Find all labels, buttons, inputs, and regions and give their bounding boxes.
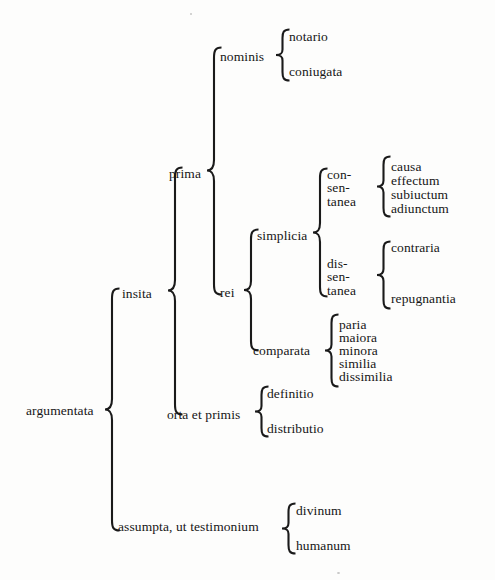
bracket-tree-diagram: argumentata insita assumpta, ut testimon… <box>0 0 495 580</box>
node-simplicia: simplicia <box>257 229 307 242</box>
brace-dissentanea <box>376 240 391 310</box>
node-definitio: definitio <box>267 387 314 400</box>
node-consentanea-line-2: sen- <box>327 181 356 194</box>
node-humanum: humanum <box>296 539 351 552</box>
node-orta-et-primis: orta et primis <box>167 408 240 421</box>
node-causa: causa <box>391 160 421 173</box>
brace-nominis <box>275 28 290 82</box>
brace-insita <box>167 166 183 416</box>
node-dissentanea-line-3: tanea <box>327 284 356 297</box>
brace-simplicia <box>312 167 328 299</box>
brace-prima <box>206 46 222 296</box>
brace-comparata <box>324 313 339 388</box>
node-notario: notario <box>289 30 328 43</box>
node-effectum: effectum <box>391 174 440 187</box>
node-dissentanea: dis- sen- tanea <box>327 257 356 297</box>
node-repugnantia: repugnantia <box>391 292 456 305</box>
node-rei: rei <box>220 286 235 299</box>
node-comparata: comparata <box>253 344 310 357</box>
brace-consentanea <box>376 155 391 218</box>
node-subiuctum: subiuctum <box>391 188 448 201</box>
brace-rei <box>243 228 259 353</box>
brace-assumpta <box>281 502 296 555</box>
node-contraria: contraria <box>391 241 440 254</box>
scan-speck <box>190 13 192 15</box>
node-insita: insita <box>122 287 152 300</box>
brace-argumentata <box>104 287 120 532</box>
node-coniugata: coniugata <box>289 65 342 78</box>
node-argumentata: argumentata <box>26 404 94 417</box>
node-assumpta-ut-testimonium: assumpta, ut testimonium <box>118 520 259 533</box>
node-dissentanea-line-2: sen- <box>327 270 356 283</box>
node-dissentanea-line-1: dis- <box>327 257 356 270</box>
node-prima: prima <box>169 167 201 180</box>
node-consentanea-line-1: con- <box>327 168 356 181</box>
node-dissimilia: dissimilia <box>339 370 393 383</box>
node-consentanea: con- sen- tanea <box>327 168 356 208</box>
scan-speck <box>337 572 340 574</box>
node-nominis: nominis <box>220 50 264 63</box>
node-divinum: divinum <box>296 504 342 517</box>
node-adiunctum: adiunctum <box>391 202 449 215</box>
node-distributio: distributio <box>267 422 324 435</box>
node-consentanea-line-3: tanea <box>327 195 356 208</box>
